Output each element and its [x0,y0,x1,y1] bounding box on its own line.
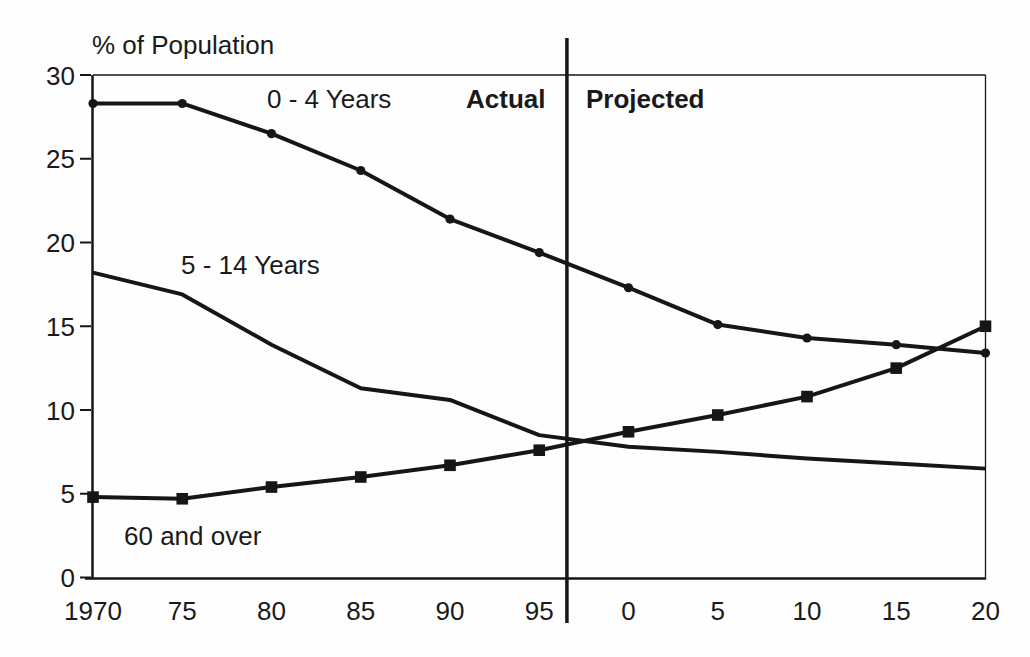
x-tick-label-95: 95 [525,596,554,626]
series-marker-square-60-and-over-1970 [87,491,99,503]
series-label-5-14-years: 5 - 14 Years [181,251,320,280]
series-marker-circle-0-4-years-15 [892,340,901,349]
series-marker-square-60-and-over-0 [623,426,635,438]
series-marker-square-60-and-over-85 [355,471,367,483]
series-marker-square-60-and-over-10 [801,391,813,403]
x-tick-label-10: 10 [793,596,822,626]
series-marker-circle-0-4-years-0 [624,283,633,292]
projected-region-label: Projected [586,85,705,114]
y-tick-label-25: 25 [46,144,75,174]
x-tick-label-20: 20 [971,596,1000,626]
series-marker-square-60-and-over-5 [712,409,724,421]
series-label-60-and-over: 60 and over [124,522,261,551]
series-marker-circle-0-4-years-20 [981,348,990,357]
y-tick-label-10: 10 [46,396,75,426]
series-marker-circle-0-4-years-95 [535,248,544,257]
series-marker-circle-0-4-years-80 [267,129,276,138]
series-line-60-and-over [93,326,986,499]
x-tick-label-1970: 1970 [64,596,122,626]
series-marker-square-60-and-over-95 [533,444,545,456]
x-tick-label-5: 5 [711,596,725,626]
x-tick-label-0: 0 [621,596,635,626]
actual-region-label: Actual [466,85,545,114]
y-axis-title: % of Population [92,31,274,60]
series-marker-square-60-and-over-15 [890,362,902,374]
series-line-5-14-years [93,273,986,469]
series-marker-square-60-and-over-20 [980,320,992,332]
x-tick-label-80: 80 [257,596,286,626]
y-tick-label-0: 0 [61,563,75,593]
series-marker-circle-0-4-years-5 [713,320,722,329]
x-tick-label-90: 90 [436,596,465,626]
series-label-0-4-years: 0 - 4 Years [267,85,391,114]
series-marker-circle-0-4-years-90 [445,214,454,223]
x-tick-label-85: 85 [346,596,375,626]
y-tick-label-20: 20 [46,228,75,258]
series-marker-square-60-and-over-75 [176,493,188,505]
series-marker-square-60-and-over-80 [266,481,278,493]
x-tick-label-75: 75 [168,596,197,626]
series-marker-circle-0-4-years-1970 [88,99,97,108]
series-line-0-4-years [93,103,986,353]
y-tick-label-15: 15 [46,312,75,342]
series-marker-circle-0-4-years-75 [178,99,187,108]
y-tick-label-30: 30 [46,61,75,91]
series-marker-circle-0-4-years-10 [802,333,811,342]
series-marker-square-60-and-over-90 [444,459,456,471]
y-tick-label-5: 5 [61,479,75,509]
x-tick-label-15: 15 [882,596,911,626]
series-marker-circle-0-4-years-85 [356,166,365,175]
population-age-structure-chart: 0510152025301970758085909505101520 % of … [0,0,1030,657]
